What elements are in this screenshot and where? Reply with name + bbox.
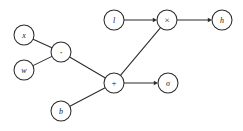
node-label-w: w — [21, 66, 27, 75]
node-label-b: b — [59, 107, 63, 116]
node-sigma[interactable]: σ — [158, 73, 178, 93]
node-h[interactable]: h — [212, 10, 232, 30]
node-plus[interactable]: + — [104, 73, 124, 93]
edge-mul-plus — [70, 57, 106, 78]
edge-b-plus — [70, 88, 105, 107]
node-label-mul: · — [59, 46, 63, 58]
arrowhead-plus-sigma — [154, 81, 158, 86]
node-w[interactable]: w — [14, 60, 34, 80]
node-mul[interactable]: · — [51, 42, 71, 62]
arrowhead-l-times — [153, 18, 157, 23]
arrowhead-times-h — [208, 18, 212, 23]
node-label-times: × — [164, 15, 169, 25]
edge-plus-times — [120, 28, 160, 76]
node-l[interactable]: l — [104, 10, 124, 30]
nodes-layer: xw·b+σl×h — [14, 10, 232, 121]
node-x[interactable]: x — [14, 25, 34, 45]
edge-w-mul — [33, 56, 52, 65]
node-b[interactable]: b — [51, 101, 71, 121]
node-times[interactable]: × — [157, 10, 177, 30]
graph-svg-canvas: xw·b+σl×h — [0, 0, 243, 131]
node-label-x: x — [21, 31, 26, 40]
node-label-h: h — [220, 16, 224, 25]
edge-x-mul — [33, 39, 52, 48]
node-label-plus: + — [111, 78, 116, 88]
computational-graph-diagram: xw·b+σl×h — [0, 0, 243, 131]
